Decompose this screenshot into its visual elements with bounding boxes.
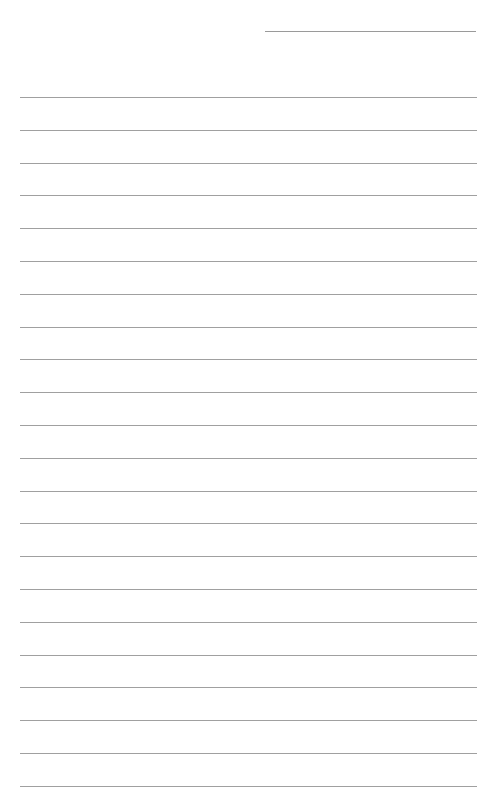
ruled-line xyxy=(20,130,477,131)
ruled-line xyxy=(20,687,477,688)
ruled-line xyxy=(20,655,477,656)
ruled-line xyxy=(20,228,477,229)
ruled-line xyxy=(20,458,477,459)
ruled-line xyxy=(20,753,477,754)
lined-paper-page xyxy=(0,0,500,807)
ruled-line xyxy=(20,392,477,393)
ruled-line xyxy=(20,294,477,295)
ruled-line xyxy=(20,195,477,196)
ruled-line xyxy=(20,359,477,360)
ruled-line xyxy=(20,491,477,492)
ruled-line xyxy=(20,622,477,623)
ruled-line xyxy=(20,327,477,328)
ruled-line xyxy=(20,589,477,590)
ruled-line xyxy=(20,523,477,524)
ruled-line xyxy=(20,261,477,262)
ruled-line xyxy=(20,163,477,164)
ruled-line xyxy=(20,97,477,98)
ruled-line xyxy=(20,720,477,721)
ruled-line xyxy=(20,425,477,426)
ruled-line xyxy=(20,556,477,557)
ruled-line xyxy=(20,786,477,787)
header-name-line xyxy=(265,31,476,32)
